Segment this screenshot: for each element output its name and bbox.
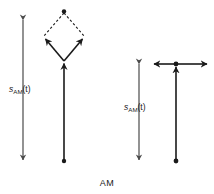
figure-canvas: sAM(t) sAM(t) (0, 0, 214, 194)
figure-caption: AM (100, 178, 114, 188)
panel-left: sAM(t) (9, 9, 85, 163)
left-axis-label-arg: (t) (23, 84, 31, 94)
left-apex-dot (62, 9, 66, 13)
left-axis-label: sAM(t) (9, 84, 31, 95)
panel-right: sAM(t) (124, 62, 207, 164)
right-axis-label-sub: AM (128, 106, 137, 113)
left-sideband-arrow-upper-left (46, 39, 65, 61)
right-axis-label-arg: (t) (138, 102, 146, 112)
left-dashed-edge-upper-right (64, 13, 85, 37)
left-sideband-arrow-upper-right (64, 39, 83, 61)
left-origin-dot (62, 159, 66, 163)
left-axis-label-sub: AM (13, 88, 22, 95)
right-axis-label: sAM(t) (124, 102, 146, 113)
right-origin-dot (174, 62, 179, 67)
am-phasor-figure: sAM(t) sAM(t) (0, 0, 214, 194)
right-base-dot (174, 159, 179, 164)
left-dashed-edge-upper-left (43, 13, 64, 37)
